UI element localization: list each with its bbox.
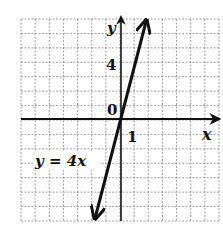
y-tick-label-4: 4 — [106, 56, 116, 74]
origin-label: 0 — [107, 101, 117, 119]
x-tick-label-1: 1 — [127, 128, 137, 146]
coordinate-graph: y 4 0 1 x y = 4x — [0, 0, 223, 230]
equation-label: y = 4x — [34, 152, 87, 170]
x-axis-label: x — [201, 125, 212, 144]
y-axis-label: y — [106, 19, 117, 37]
